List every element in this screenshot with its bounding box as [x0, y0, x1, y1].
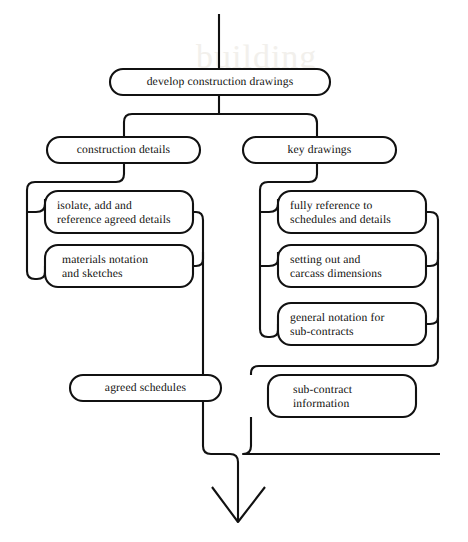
- connector-right-exit-box3: [426, 310, 438, 324]
- node-box-general-notation[interactable]: [278, 303, 426, 345]
- connector-right-feed-box1: [260, 199, 278, 212]
- connector-right-exit-box2: [426, 252, 438, 266]
- node-box-construction-details[interactable]: [47, 137, 200, 163]
- connector-split-bar: [124, 114, 317, 137]
- node-box-fully-reference[interactable]: [278, 191, 426, 233]
- node-box-isolate-add-reference[interactable]: [45, 191, 193, 233]
- node-box-materials-notation[interactable]: [45, 245, 193, 287]
- node-box-setting-out[interactable]: [278, 245, 426, 287]
- connector-left-exit-box1: [193, 212, 203, 375]
- flowchart-canvas: [0, 0, 468, 542]
- node-box-develop-construction-drawings[interactable]: [110, 69, 330, 95]
- connector-right-feed-box2: [260, 252, 278, 266]
- connector-agreed-out: [203, 401, 238, 520]
- node-layer: [45, 69, 426, 417]
- connector-subcontract-out: [243, 417, 440, 454]
- connector-left-exit-box2: [193, 252, 203, 266]
- connector-left-feed-box1: [27, 199, 45, 212]
- node-box-sub-contract-information[interactable]: [268, 375, 416, 417]
- connector-right-exit-box1: [251, 212, 438, 375]
- node-box-key-drawings[interactable]: [243, 137, 396, 163]
- node-box-agreed-schedules[interactable]: [70, 375, 221, 401]
- flowchart-diagram: building develop construction drawingsco…: [0, 0, 468, 542]
